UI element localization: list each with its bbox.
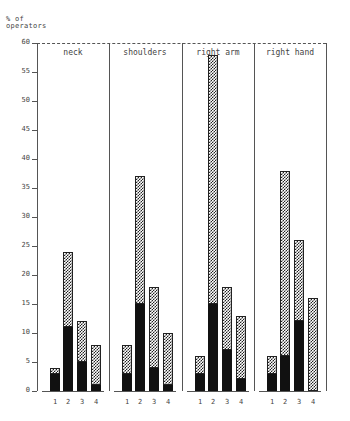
y-axis-label-line2: operators bbox=[6, 23, 47, 30]
bar-segment-solid bbox=[163, 385, 173, 391]
bar-segment-solid bbox=[50, 374, 60, 391]
baseline bbox=[42, 391, 104, 392]
baseline bbox=[187, 391, 249, 392]
bar bbox=[294, 240, 304, 391]
x-tick-label: 2 bbox=[208, 398, 218, 406]
bar bbox=[308, 298, 318, 391]
bar-segment-hatched bbox=[208, 55, 218, 304]
bar bbox=[122, 345, 132, 391]
x-tick-label: 1 bbox=[195, 398, 205, 406]
x-tick-label: 4 bbox=[236, 398, 246, 406]
y-tick-label: 35 bbox=[6, 183, 30, 191]
bar-segment-solid bbox=[267, 374, 277, 391]
bar bbox=[236, 316, 246, 391]
x-tick-label: 3 bbox=[222, 398, 232, 406]
bar-segment-hatched bbox=[135, 176, 145, 304]
y-axis-label: % of operators bbox=[6, 16, 47, 30]
bar-segment-hatched bbox=[195, 356, 205, 373]
bar-segment-solid bbox=[122, 374, 132, 391]
bar-segment-hatched bbox=[122, 345, 132, 374]
bar-segment-solid bbox=[236, 379, 246, 391]
x-tick-label: 3 bbox=[149, 398, 159, 406]
x-tick-label: 2 bbox=[135, 398, 145, 406]
bar-segment-solid bbox=[208, 304, 218, 391]
bar bbox=[222, 287, 232, 391]
bar-segment-hatched bbox=[294, 240, 304, 321]
y-tick-label: 5 bbox=[6, 357, 30, 365]
x-tick-label: 3 bbox=[77, 398, 87, 406]
panel-neck bbox=[37, 43, 110, 391]
bar bbox=[208, 55, 218, 391]
bar bbox=[267, 356, 277, 391]
baseline bbox=[114, 391, 176, 392]
bar bbox=[50, 368, 60, 391]
y-tick-label: 0 bbox=[6, 386, 30, 394]
y-tick-label: 20 bbox=[6, 270, 30, 278]
x-tick-label: 4 bbox=[308, 398, 318, 406]
panel-title: neck bbox=[37, 48, 109, 57]
y-tick-label: 10 bbox=[6, 328, 30, 336]
bar-segment-solid bbox=[77, 362, 87, 391]
bar-segment-solid bbox=[63, 327, 73, 391]
bar-segment-solid bbox=[135, 304, 145, 391]
x-tick-label: 1 bbox=[267, 398, 277, 406]
x-tick-label: 1 bbox=[50, 398, 60, 406]
bar-segment-solid bbox=[91, 385, 101, 391]
x-tick-label: 2 bbox=[280, 398, 290, 406]
y-tick-label: 60 bbox=[6, 38, 30, 46]
x-tick-label: 4 bbox=[91, 398, 101, 406]
y-tick-label: 55 bbox=[6, 67, 30, 75]
bar-segment-hatched bbox=[280, 171, 290, 357]
bar-segment-solid bbox=[195, 374, 205, 391]
bar bbox=[280, 171, 290, 391]
bar-segment-hatched bbox=[236, 316, 246, 380]
bar-segment-hatched bbox=[91, 345, 101, 386]
bar-segment-solid bbox=[294, 321, 304, 391]
bar-segment-hatched bbox=[149, 287, 159, 368]
bar bbox=[195, 356, 205, 391]
bar-segment-hatched bbox=[163, 333, 173, 385]
bar-segment-hatched bbox=[222, 287, 232, 351]
bar-segment-solid bbox=[149, 368, 159, 391]
y-tick-label: 30 bbox=[6, 212, 30, 220]
y-tick-label: 45 bbox=[6, 125, 30, 133]
y-tick-label: 50 bbox=[6, 96, 30, 104]
y-tick-label: 40 bbox=[6, 154, 30, 162]
y-tick bbox=[32, 391, 37, 392]
panel-title: right hand bbox=[254, 48, 326, 57]
bar-segment-hatched bbox=[308, 298, 318, 391]
bar bbox=[163, 333, 173, 391]
bar-segment-hatched bbox=[63, 252, 73, 327]
x-tick-label: 4 bbox=[163, 398, 173, 406]
bar bbox=[63, 252, 73, 391]
bar-segment-hatched bbox=[77, 321, 87, 362]
bar-segment-solid bbox=[280, 356, 290, 391]
panel-title: shoulders bbox=[109, 48, 181, 57]
bar bbox=[77, 321, 87, 391]
y-tick-label: 25 bbox=[6, 241, 30, 249]
bar bbox=[91, 345, 101, 391]
x-tick-label: 2 bbox=[63, 398, 73, 406]
baseline bbox=[259, 391, 321, 392]
bar bbox=[135, 176, 145, 391]
y-tick-label: 15 bbox=[6, 299, 30, 307]
bar bbox=[149, 287, 159, 391]
x-tick-label: 1 bbox=[122, 398, 132, 406]
x-tick-label: 3 bbox=[294, 398, 304, 406]
bar-segment-hatched bbox=[267, 356, 277, 373]
panel-title: right arm bbox=[182, 48, 254, 57]
bar-segment-solid bbox=[222, 350, 232, 391]
